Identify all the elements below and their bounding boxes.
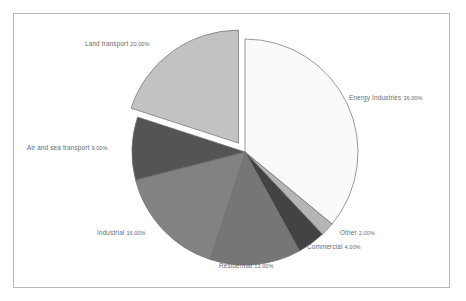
slice-label-other: Other 2.00% [340, 229, 375, 236]
slice-label-text: Industrial [97, 229, 124, 236]
slice-label-text: Other [340, 229, 357, 236]
pie-chart-figure: Energy Industries 36.00% Other 2.00% Com… [0, 0, 466, 301]
pie-slice-group [131, 30, 358, 265]
slice-label-land-transport: Land transport 20.00% [85, 40, 150, 47]
slice-label-percent: 16.00% [126, 230, 145, 236]
slice-label-text: Air and sea transport [27, 144, 89, 151]
slice-label-percent: 36.00% [403, 95, 422, 101]
slice-label-industrial: Industrial 16.00% [97, 229, 146, 236]
slice-label-text: Residential [219, 262, 252, 269]
slice-label-percent: 4.00% [345, 244, 361, 250]
slice-label-text: Land transport [85, 40, 128, 47]
slice-label-residential: Residential 13.00% [219, 262, 274, 269]
slice-label-percent: 20.00% [130, 41, 149, 47]
slice-label-energy-industries: Energy Industries 36.00% [349, 94, 423, 101]
slice-label-percent: 2.00% [359, 230, 375, 236]
slice-label-text: Energy Industries [349, 94, 401, 101]
slice-label-commercial: Commercial 4.00% [307, 243, 361, 250]
slice-label-percent: 13.00% [254, 263, 273, 269]
slice-label-percent: 9.00% [91, 145, 107, 151]
slice-label-air-and-sea-transport: Air and sea transport 9.00% [27, 144, 108, 151]
slice-label-text: Commercial [307, 243, 343, 250]
